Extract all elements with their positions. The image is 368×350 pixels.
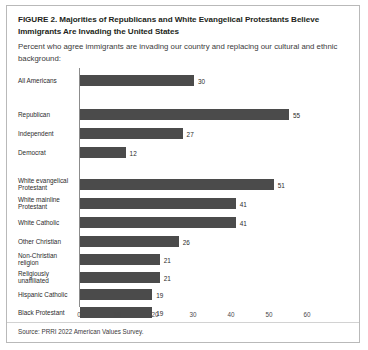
bar-fill [80, 198, 236, 209]
bar-track: 12 [80, 146, 350, 159]
bar-track: 27 [80, 127, 350, 140]
bar-fill [80, 236, 179, 247]
bar-category-label: All Americans [18, 77, 75, 85]
x-axis-tick-label: 30 [189, 311, 196, 318]
bar-row: Democrat12 [18, 146, 350, 159]
bar-row: All Americans30 [18, 74, 350, 87]
bar-category-label: Democrat [18, 149, 75, 157]
figure-title: FIGURE 2. Majorities of Republicans and … [18, 14, 348, 38]
bar-track: 26 [80, 235, 350, 248]
x-axis: 0102030405060 [18, 307, 350, 321]
bar-category-label: White mainlineProtestant [18, 196, 75, 211]
bar-category-label: Religiouslyunaffiliated [18, 270, 75, 285]
bar-value-label: 41 [240, 219, 247, 226]
bar-track: 51 [80, 178, 350, 191]
bar-value-label: 19 [156, 291, 163, 298]
source-divider [7, 322, 359, 323]
bar-category-label: White Catholic [18, 219, 75, 227]
bar-value-label: 30 [198, 77, 205, 84]
bar-fill [80, 128, 183, 139]
bar-track: 41 [80, 197, 350, 210]
x-axis-tick-label: 10 [113, 311, 120, 318]
bar-fill [80, 254, 160, 265]
bar-row: Religiouslyunaffiliated21 [18, 271, 350, 284]
x-axis-tick-label: 60 [303, 311, 310, 318]
bar-fill [80, 147, 126, 158]
bar-track: 21 [80, 271, 350, 284]
bar-category-label: Other Christian [18, 238, 75, 246]
chart-plot-area: All Americans30Republican55Independent27… [18, 68, 350, 316]
bar-fill [80, 272, 160, 283]
bar-fill [80, 179, 274, 190]
figure-subtitle: Percent who agree immigrants are invadin… [18, 41, 350, 65]
bar-track: 21 [80, 253, 350, 266]
bar-track: 30 [80, 74, 350, 87]
bar-category-label: Republican [18, 111, 75, 119]
bar-row: Hispanic Catholic19 [18, 288, 350, 301]
bar-fill [80, 109, 289, 120]
bar-row: Republican55 [18, 108, 350, 121]
bar-row: White mainlineProtestant41 [18, 197, 350, 210]
bar-row: Other Christian26 [18, 235, 350, 248]
bar-category-label: Independent [18, 130, 75, 138]
x-axis-tick-label: 50 [265, 311, 272, 318]
bar-value-label: 21 [164, 256, 171, 263]
bar-fill [80, 289, 152, 300]
x-axis-tick-label: 0 [77, 311, 81, 318]
bar-row: Non-Christianreligion21 [18, 253, 350, 266]
bar-row: White Catholic41 [18, 216, 350, 229]
bar-value-label: 26 [183, 238, 190, 245]
bar-value-label: 12 [130, 149, 137, 156]
bar-value-label: 41 [240, 200, 247, 207]
bar-row: White evangelicalProtestant51 [18, 178, 350, 191]
bar-category-label: White evangelicalProtestant [18, 177, 75, 192]
bar-category-label: Hispanic Catholic [18, 291, 75, 299]
bar-track: 41 [80, 216, 350, 229]
bar-row: Independent27 [18, 127, 350, 140]
bar-track: 19 [80, 288, 350, 301]
bar-track: 55 [80, 108, 350, 121]
bar-fill [80, 75, 194, 86]
bar-category-label: Non-Christianreligion [18, 252, 75, 267]
bar-value-label: 27 [187, 130, 194, 137]
bar-value-label: 21 [164, 274, 171, 281]
source-note: Source: PRRI 2022 American Values Survey… [18, 328, 143, 335]
bar-value-label: 55 [293, 111, 300, 118]
bar-value-label: 51 [278, 181, 285, 188]
x-axis-tick-label: 20 [151, 311, 158, 318]
figure-container: FIGURE 2. Majorities of Republicans and … [6, 5, 360, 343]
bar-fill [80, 217, 236, 228]
x-axis-tick-label: 40 [227, 311, 234, 318]
